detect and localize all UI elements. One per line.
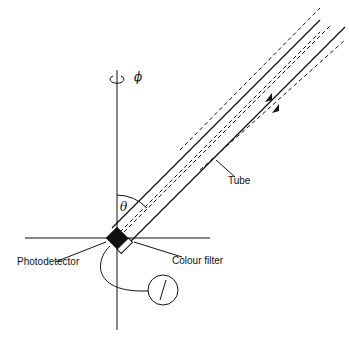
ray-outer-left bbox=[180, 8, 320, 150]
ray-inner-2 bbox=[120, 32, 320, 232]
phi-label: ϕ bbox=[134, 70, 142, 84]
ray-inner bbox=[124, 26, 330, 232]
tube-label: Tube bbox=[228, 175, 250, 186]
meter-wire bbox=[101, 246, 148, 291]
colour-filter-label: Colour filter bbox=[172, 255, 223, 266]
theta-label: θ bbox=[120, 200, 127, 214]
ray-outer-right bbox=[200, 40, 345, 170]
tube-wall-left bbox=[112, 20, 320, 228]
diagram: Tube Colour filter Photodetector θ ϕ bbox=[0, 0, 349, 342]
photodetector-label: Photodetector bbox=[17, 256, 79, 267]
ray-arrowhead-2 bbox=[272, 104, 279, 113]
meter-needle bbox=[160, 280, 166, 300]
photodetector bbox=[106, 227, 133, 254]
tube-wall-right bbox=[128, 27, 345, 244]
diagram-svg bbox=[0, 0, 349, 342]
